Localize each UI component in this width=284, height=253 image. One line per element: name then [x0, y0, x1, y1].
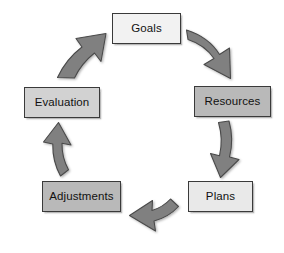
node-plans-label: Plans	[206, 191, 235, 203]
arrow-evaluation-to-goals	[58, 34, 107, 79]
node-goals-label: Goals	[131, 23, 162, 35]
arrow-goals-to-resources	[187, 30, 231, 79]
node-plans[interactable]: Plans	[188, 181, 253, 212]
node-adjustments-label: Adjustments	[49, 191, 113, 203]
arrow-adjustments-to-evaluation	[44, 123, 72, 177]
arrow-resources-to-plans	[211, 121, 240, 178]
node-resources-label: Resources	[205, 96, 261, 108]
node-adjustments[interactable]: Adjustments	[42, 181, 121, 212]
node-evaluation-label: Evaluation	[35, 97, 90, 109]
node-goals[interactable]: Goals	[112, 13, 181, 44]
arrow-plans-to-adjustments	[130, 199, 179, 231]
node-evaluation[interactable]: Evaluation	[24, 87, 100, 118]
node-resources[interactable]: Resources	[194, 86, 271, 117]
cycle-diagram-canvas: Goals Resources Plans Adjustments Evalua…	[0, 0, 284, 253]
